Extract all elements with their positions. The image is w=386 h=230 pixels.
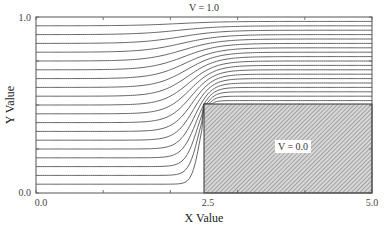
contour-line — [36, 21, 372, 25]
x-axis-title: X Value — [185, 211, 224, 225]
x-tick-label-1: 2.5 — [202, 197, 215, 208]
y-tick-label-1: 1.0 — [19, 12, 32, 23]
y-axis-title: Y Value — [3, 86, 17, 124]
x-tick-label-0: 0.0 — [35, 197, 48, 208]
contour-line — [36, 57, 372, 97]
x-tick-label-2: 5.0 — [366, 197, 379, 208]
obstacle-label: V = 0.0 — [278, 141, 308, 152]
contour-chart: V = 0.0 V = 1.0 1.0 0.0 0.0 2.5 5.0 X Va… — [0, 0, 386, 230]
contour-line — [36, 30, 372, 43]
top-boundary-label: V = 1.0 — [189, 2, 219, 13]
y-tick-label-0: 0.0 — [19, 187, 32, 198]
